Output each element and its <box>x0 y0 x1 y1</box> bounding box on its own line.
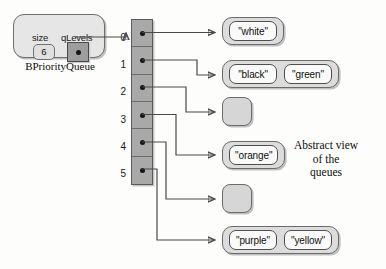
pointer-dot-icon <box>140 31 145 36</box>
array-cell-4 <box>132 129 152 156</box>
pointer-dot-icon <box>140 58 145 63</box>
pointer-dot-icon <box>76 50 81 55</box>
array-cell-0 <box>132 20 152 47</box>
array-index-label-3: 3 <box>112 114 126 125</box>
array-index-label-5: 5 <box>112 168 126 179</box>
queue-level-5: "purple" "yellow" <box>222 226 339 254</box>
abstract-caption-line-3: queues <box>274 166 378 180</box>
qlevels-array <box>131 19 153 185</box>
array-index-label-1: 1 <box>112 59 126 70</box>
queue-level-1: "black" "green" <box>222 60 339 88</box>
array-index-label-0: 0 <box>112 32 126 43</box>
array-cell-2 <box>132 75 152 102</box>
pointer-dot-icon <box>140 168 145 173</box>
pointer-dot-icon <box>140 113 145 118</box>
queue-level-2 <box>222 97 252 126</box>
array-cell-5 <box>132 157 152 184</box>
qlevels-pointer-cell <box>67 42 89 62</box>
array-cell-1 <box>132 47 152 74</box>
bpriorityqueue-object: size qLevels 6 <box>13 14 105 58</box>
pointer-dot-icon <box>140 140 145 145</box>
array-cell-3 <box>132 102 152 129</box>
size-value-cell: 6 <box>33 44 55 60</box>
queue-item: "yellow" <box>284 230 332 250</box>
diagram-canvas: size qLevels 6 BPriorityQueue 0 1 2 3 4 … <box>0 0 386 269</box>
field-label-size: size <box>32 32 48 43</box>
array-index-label-4: 4 <box>112 141 126 152</box>
queue-level-4 <box>222 184 252 213</box>
abstract-caption-line-2: of the <box>274 153 378 167</box>
queue-item: "white" <box>229 21 277 41</box>
queue-item: "black" <box>229 64 277 84</box>
queue-level-0: "white" <box>222 17 284 45</box>
queue-item: "orange" <box>229 145 278 165</box>
queue-item: "purple" <box>229 230 277 250</box>
queue-item: "green" <box>284 64 332 84</box>
abstract-caption-line-1: Abstract view <box>274 139 378 153</box>
pointer-dot-icon <box>140 85 145 90</box>
object-class-label: BPriorityQueue <box>13 60 107 72</box>
array-index-label-2: 2 <box>112 86 126 97</box>
abstract-view-caption: Abstract view of the queues <box>274 139 378 180</box>
